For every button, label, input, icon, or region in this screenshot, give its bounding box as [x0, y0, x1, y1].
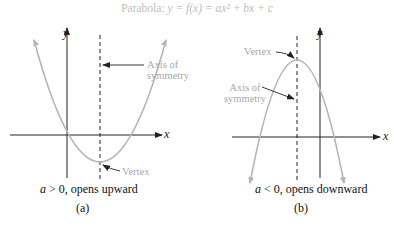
panel-a-graph — [10, 28, 166, 180]
vertex-label-b: Vertex — [244, 46, 271, 57]
vertex-pointer-a — [103, 165, 120, 171]
sublabel-a: (a) — [76, 201, 89, 216]
vertex-pointer-b — [276, 52, 294, 58]
caption-a: a > 0, opens upward — [40, 182, 138, 197]
vertex-label-a: Vertex — [122, 166, 149, 177]
sublabel-b: (b) — [294, 201, 308, 216]
axis-pointer-b — [262, 87, 294, 99]
y-axis-label-a: y — [63, 26, 68, 41]
axis-of-symmetry-label-b: Axis of symmetry — [224, 82, 266, 104]
y-axis-label-b: y — [317, 26, 322, 41]
x-axis-label-b: x — [383, 129, 388, 144]
x-axis-label-a: x — [164, 127, 169, 142]
caption-b: a < 0, opens downward — [255, 182, 367, 197]
axis-of-symmetry-label-a: Axis of symmetry — [147, 59, 189, 81]
